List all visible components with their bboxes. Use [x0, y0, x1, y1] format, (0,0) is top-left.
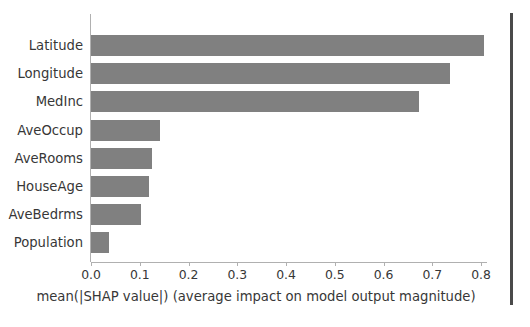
- plot-area: LatitudeLongitudeMedIncAveOccupAveRoomsH…: [91, 14, 511, 262]
- x-axis-title: mean(|SHAP value|) (average impact on mo…: [0, 289, 512, 304]
- bar-row: HouseAge: [91, 176, 511, 197]
- bar-medinc: [91, 91, 419, 112]
- bar-houseage: [91, 176, 149, 197]
- x-tick-mark: [384, 262, 385, 266]
- shap-feature-importance-chart: LatitudeLongitudeMedIncAveOccupAveRoomsH…: [0, 0, 530, 327]
- bar-latitude: [91, 35, 484, 56]
- x-tick-mark: [237, 262, 238, 266]
- bar-avebedrms: [91, 204, 141, 225]
- y-tick-label-population: Population: [0, 232, 91, 253]
- y-tick-label-aveoccup: AveOccup: [0, 120, 91, 141]
- x-tick-mark: [286, 262, 287, 266]
- x-tick-mark: [140, 262, 141, 266]
- y-tick-label-latitude: Latitude: [0, 35, 91, 56]
- y-tick-label-averooms: AveRooms: [0, 148, 91, 169]
- y-tick-label-houseage: HouseAge: [0, 176, 91, 197]
- scan-edge-artifact: [510, 13, 513, 305]
- bar-averooms: [91, 148, 152, 169]
- bar-population: [91, 232, 109, 253]
- bar-row: AveBedrms: [91, 204, 511, 225]
- bar-longitude: [91, 63, 450, 84]
- bar-row: AveOccup: [91, 120, 511, 141]
- x-tick-mark: [481, 262, 482, 266]
- bar-row: MedInc: [91, 91, 511, 112]
- bar-row: Population: [91, 232, 511, 253]
- y-tick-label-longitude: Longitude: [0, 63, 91, 84]
- x-tick-mark: [432, 262, 433, 266]
- x-axis-spine: [91, 262, 487, 263]
- bar-row: Longitude: [91, 63, 511, 84]
- y-tick-label-medinc: MedInc: [0, 91, 91, 112]
- bar-row: Latitude: [91, 35, 511, 56]
- bar-aveoccup: [91, 120, 160, 141]
- x-tick-mark: [91, 262, 92, 266]
- x-tick-mark: [189, 262, 190, 266]
- x-tick-mark: [335, 262, 336, 266]
- x-tick-label: 0.8: [451, 267, 511, 282]
- bar-row: AveRooms: [91, 148, 511, 169]
- y-tick-label-avebedrms: AveBedrms: [0, 204, 91, 225]
